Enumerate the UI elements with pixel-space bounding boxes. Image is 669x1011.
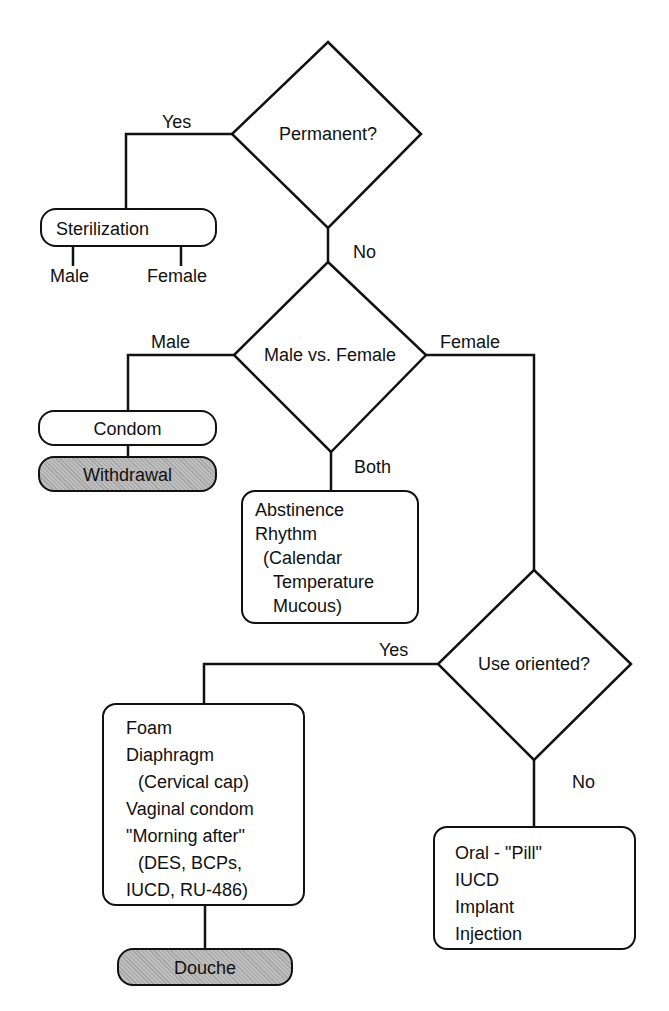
method-foam: Foam <box>126 715 295 742</box>
sterilization-sub-male: Male <box>50 266 89 286</box>
node-condom: Condom <box>38 410 217 446</box>
method-implant: Implant <box>455 894 626 921</box>
method-oral-pill: Oral - "Pill" <box>455 840 626 867</box>
branch-label-permanent-yes: Yes <box>162 112 191 132</box>
method-morning-after: "Morning after" <box>126 823 295 850</box>
node-douche: Douche <box>117 948 293 986</box>
branch-label-both: Both <box>354 457 391 477</box>
method-diaphragm: Diaphragm <box>126 742 295 769</box>
node-sterilization: Sterilization <box>40 208 217 247</box>
node-non-use-methods: Oral - "Pill" IUCD Implant Injection <box>433 826 636 950</box>
branch-label-male: Male <box>151 332 190 352</box>
node-douche-label: Douche <box>174 958 236 978</box>
method-vaginal-condom: Vaginal condom <box>126 796 295 823</box>
sterilization-sub-female: Female <box>147 266 207 286</box>
method-injection: Injection <box>455 921 626 948</box>
node-condom-label: Condom <box>93 419 161 439</box>
method-cervical-cap: (Cervical cap) <box>126 769 295 796</box>
method-temperature: Temperature <box>255 570 409 594</box>
method-rhythm: Rhythm <box>255 522 409 546</box>
node-withdrawal: Withdrawal <box>38 456 217 492</box>
method-calendar: (Calendar <box>255 546 409 570</box>
method-des-bcps: (DES, BCPs, <box>126 850 295 877</box>
decision-permanent-text: Permanent? <box>258 124 398 144</box>
decision-sex-text: Male vs. Female <box>236 345 424 365</box>
branch-label-female: Female <box>440 332 500 352</box>
branch-label-permanent-no: No <box>353 242 376 262</box>
decision-use-oriented-text: Use oriented? <box>456 654 612 674</box>
node-both-methods: Abstinence Rhythm (Calendar Temperature … <box>241 490 419 624</box>
method-iucd: IUCD <box>455 867 626 894</box>
node-withdrawal-label: Withdrawal <box>83 465 172 485</box>
node-sterilization-label: Sterilization <box>56 219 149 239</box>
branch-label-use-yes: Yes <box>379 640 408 660</box>
method-mucous: Mucous) <box>255 594 409 618</box>
branch-label-use-no: No <box>572 772 595 792</box>
method-abstinence: Abstinence <box>255 498 409 522</box>
method-iucd-ru486: IUCD, RU-486) <box>126 877 295 904</box>
node-use-methods: Foam Diaphragm (Cervical cap) Vaginal co… <box>102 703 305 906</box>
